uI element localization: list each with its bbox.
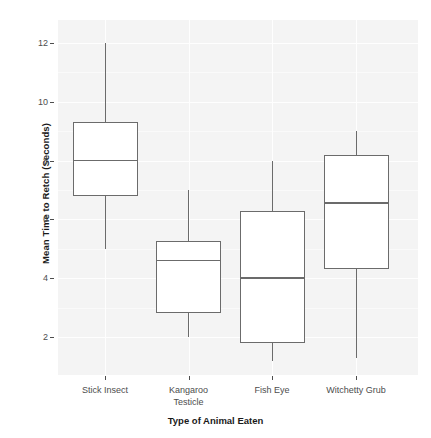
plot-panel [58, 20, 418, 375]
y-axis-tick-mark [50, 278, 54, 279]
y-axis-tick-label: 12 [16, 38, 48, 48]
box-iqr [324, 155, 389, 270]
y-axis-tick-label: 6 [16, 214, 48, 224]
y-axis-tick-label: 2 [16, 332, 48, 342]
x-axis-tick-label-line: Witchetty Grub [326, 385, 386, 397]
x-axis-tick-label-line: Stick Insect [82, 385, 128, 397]
median-line [156, 260, 221, 262]
x-axis-tick-mark [105, 376, 106, 380]
boxplot-figure: Mean Time to Retch (Seconds) 24681012 St… [0, 0, 431, 438]
whisker-upper [356, 131, 357, 155]
gridline-minor [58, 72, 418, 73]
x-axis-tick-mark [272, 376, 273, 380]
x-axis-tick-label: Witchetty Grub [326, 385, 386, 397]
y-axis-tick-mark [50, 161, 54, 162]
y-axis-tick-label: 8 [16, 156, 48, 166]
gridline-major [58, 43, 418, 44]
whisker-upper [105, 43, 106, 122]
x-axis-tick-label-line: Testicle [169, 397, 208, 409]
median-line [324, 202, 389, 204]
median-line [73, 160, 138, 162]
whisker-lower [356, 269, 357, 357]
gridline-major [58, 337, 418, 338]
x-axis-tick-mark [356, 376, 357, 380]
gridline-minor [58, 308, 418, 309]
y-axis-tick-mark [50, 219, 54, 220]
y-axis-tick-mark [50, 102, 54, 103]
gridline-major [58, 102, 418, 103]
y-axis-tick-labels: 24681012 [12, 0, 48, 438]
x-axis-tick-label: KangarooTesticle [169, 385, 208, 408]
median-line [240, 277, 305, 279]
x-axis-tick-label: Fish Eye [254, 385, 289, 397]
y-axis-tick-label: 4 [16, 273, 48, 283]
whisker-upper [188, 190, 189, 241]
x-axis-title: Type of Animal Eaten [0, 415, 431, 426]
x-axis-tick-label-line: Kangaroo [169, 385, 208, 397]
y-axis-tick-mark [50, 337, 54, 338]
y-axis-tick-label: 10 [16, 97, 48, 107]
box-iqr [156, 241, 221, 313]
x-axis-tick-label-line: Fish Eye [254, 385, 289, 397]
x-axis-tick-label: Stick Insect [82, 385, 128, 397]
whisker-lower [105, 196, 106, 249]
whisker-lower [188, 313, 189, 337]
whisker-lower [272, 343, 273, 361]
gridline-major [58, 278, 418, 279]
whisker-upper [272, 161, 273, 211]
x-axis-tick-mark [189, 376, 190, 380]
y-axis-tick-mark [50, 43, 54, 44]
